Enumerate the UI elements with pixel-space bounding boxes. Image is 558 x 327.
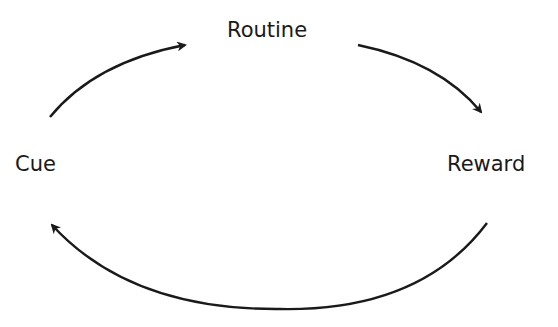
arrow-cue-to-routine — [50, 45, 185, 117]
habit-loop-diagram: Routine Reward Cue — [0, 0, 558, 327]
node-routine: Routine — [227, 20, 307, 41]
node-cue: Cue — [15, 154, 56, 175]
node-reward: Reward — [447, 154, 525, 175]
arrow-reward-to-cue — [52, 223, 487, 309]
arrow-routine-to-reward — [358, 45, 481, 112]
